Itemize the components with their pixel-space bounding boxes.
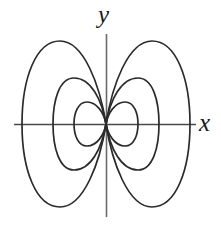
plot-canvas — [0, 0, 221, 232]
x-axis-label: x — [199, 110, 210, 135]
y-axis-label: y — [98, 2, 109, 27]
lemniscate-figure: y x — [0, 0, 221, 232]
